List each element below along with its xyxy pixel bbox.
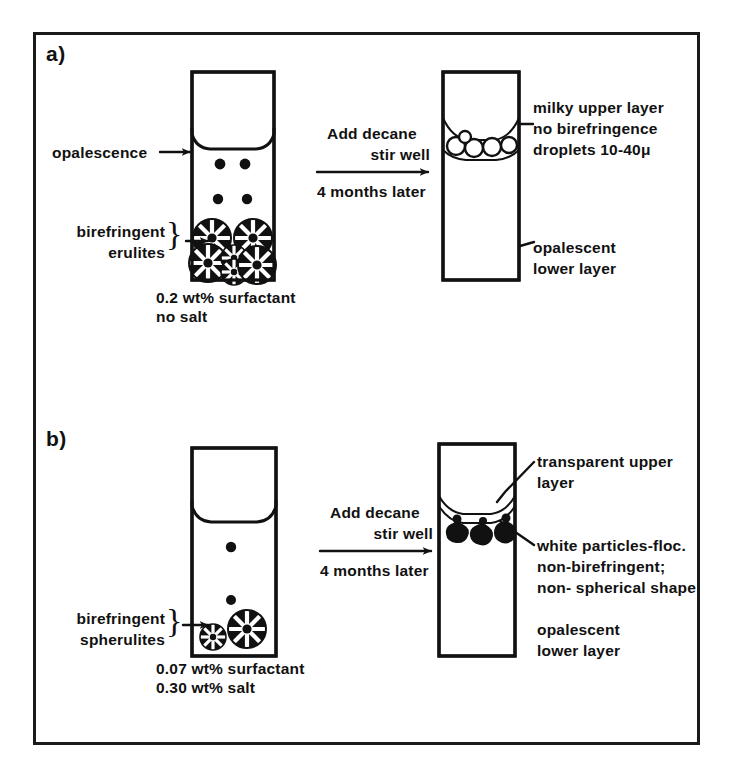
diagram-artwork [0, 0, 733, 784]
figure-canvas: a) opalescence birefringent erulites } A… [0, 0, 733, 784]
tube-a-right [443, 72, 519, 280]
leader-opalescent-lower-a [520, 242, 534, 246]
tube-b-right [439, 444, 517, 656]
tube-a-left [189, 72, 276, 285]
floc-particles-b [446, 514, 517, 546]
